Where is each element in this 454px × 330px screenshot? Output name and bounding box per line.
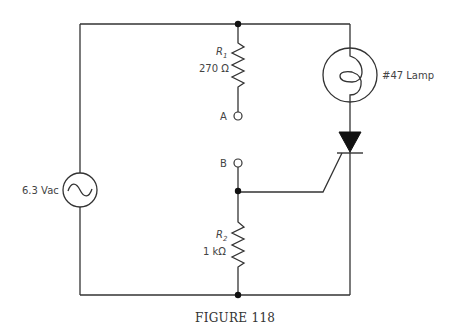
terminal-b-label: B bbox=[220, 158, 227, 169]
terminal-a-label: A bbox=[220, 111, 227, 122]
source-label: 6.3 Vac bbox=[22, 185, 59, 196]
lamp-label: #47 Lamp bbox=[382, 70, 434, 81]
resistor-r2 bbox=[232, 218, 244, 280]
ac-source-icon bbox=[63, 173, 97, 207]
lamp-icon bbox=[323, 48, 377, 102]
resistor-r1 bbox=[232, 38, 244, 95]
circuit-diagram: R1 270 Ω A B R2 1 kΩ 6.3 Vac #47 Lamp FI… bbox=[0, 0, 454, 330]
junction-middle bbox=[235, 188, 241, 194]
terminal-b[interactable] bbox=[234, 159, 242, 167]
r2-value: 1 kΩ bbox=[203, 246, 226, 257]
scr-icon bbox=[337, 132, 363, 153]
terminal-a[interactable] bbox=[234, 112, 242, 120]
r1-value: 270 Ω bbox=[199, 63, 229, 74]
r1-name: R1 bbox=[216, 46, 227, 60]
figure-caption: FIGURE 118 bbox=[195, 311, 275, 325]
junction-bottom bbox=[235, 292, 241, 298]
r2-name: R2 bbox=[216, 229, 228, 243]
junction-top bbox=[235, 21, 241, 27]
